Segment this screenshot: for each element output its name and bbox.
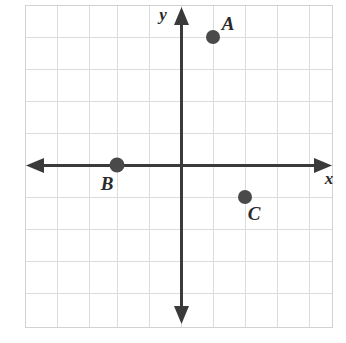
coordinate-plane-svg: y x A B C [0, 0, 346, 343]
point-a-dot [206, 30, 220, 44]
y-axis-arrow-up-icon [174, 7, 189, 25]
point-b-label: B [100, 173, 114, 194]
x-axis-label: x [324, 169, 334, 188]
y-axis-arrow-down-icon [174, 306, 189, 324]
point-b-dot [110, 158, 125, 173]
x-axis [26, 158, 332, 173]
y-axis-label: y [157, 5, 167, 24]
point-c-dot [238, 190, 252, 204]
point-c-label: C [248, 203, 261, 224]
x-axis-arrow-left-icon [26, 158, 44, 173]
coordinate-plane-figure: y x A B C [0, 0, 346, 343]
point-a-label: A [221, 13, 235, 34]
